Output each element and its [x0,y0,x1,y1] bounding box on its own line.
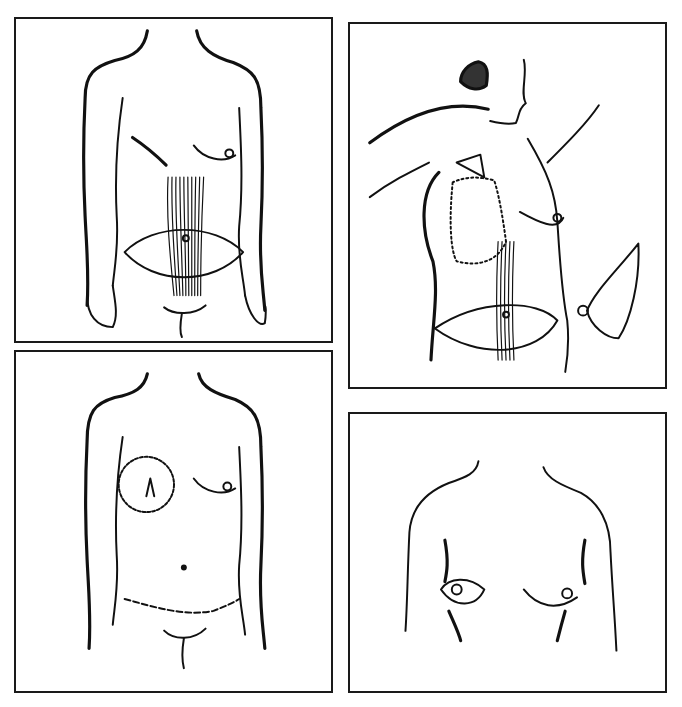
hair [461,62,488,89]
panel-flap-transfer: Oblique view showing TRAM flap pedicled … [348,22,667,389]
nipple [223,482,231,490]
torso-illustration-postop [16,352,331,691]
panel-final-result: Final result of breast reconstruction wi… [348,412,667,693]
mastectomy-scar [133,138,167,166]
right-body-outline [197,31,265,310]
torso-illustration-final [350,414,665,691]
umbilicus [503,312,509,318]
side-body-outline [424,172,439,360]
panel-postop-sutured: Frontal torso after flap inset with sutu… [14,350,333,693]
nipple [562,588,572,598]
right-shoulder-outline [543,467,616,650]
raised-arm-lower [370,163,429,198]
abdominal-suture-line [125,599,240,613]
inset-flap-shaping [578,244,638,339]
panel-preop-markings: Frontal female torso with rectus abdomin… [14,17,333,343]
face-profile [490,60,526,124]
umbilicus [183,235,189,241]
right-arm [547,105,598,162]
umbilicus [181,564,187,570]
reconstructed-nipple [452,585,462,595]
triangle-flap-tip [457,155,485,178]
nipple [225,149,233,157]
left-shoulder-outline [405,461,478,631]
left-hand [87,286,116,327]
raised-arm-upper [370,106,488,143]
reconstructed-breast [441,580,484,604]
torso-illustration-preop [16,19,331,341]
right-body-outline [199,374,265,649]
sutured-flap-on-chest [119,457,174,512]
torso-illustration-flap-transfer [350,24,665,387]
rectus-pedicle [497,242,514,360]
flap-arrow-icon [146,479,154,497]
